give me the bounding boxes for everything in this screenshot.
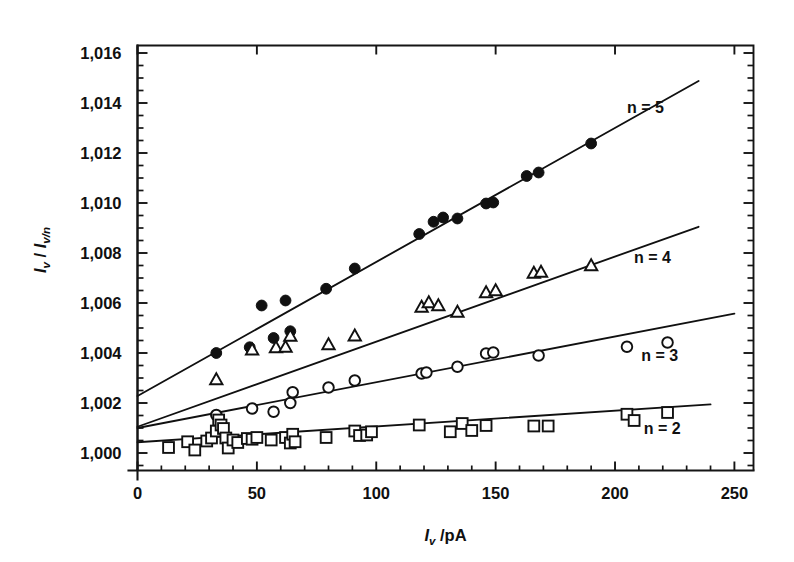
x-tick-label: 0 — [133, 484, 142, 502]
marker-open-square — [528, 421, 539, 432]
y-tick-label: 1,000 — [80, 444, 121, 462]
y-axis-title: Iv / Iv/n — [31, 227, 52, 273]
marker-open-square — [366, 426, 377, 437]
marker-open-square — [414, 420, 425, 431]
marker-filled-circle — [488, 197, 499, 208]
marker-filled-circle — [256, 300, 267, 311]
marker-open-triangle — [423, 296, 435, 307]
marker-filled-circle — [321, 283, 332, 294]
marker-filled-circle — [211, 348, 222, 359]
series-labels: n = 5n = 4n = 3n = 2 — [627, 99, 681, 437]
marker-open-square — [290, 436, 301, 447]
series-label-0: n = 5 — [627, 99, 664, 116]
marker-filled-circle — [349, 263, 360, 274]
marker-filled-circle — [452, 213, 463, 224]
x-tick-label: 200 — [601, 484, 629, 502]
marker-open-square — [543, 421, 554, 432]
marker-open-triangle — [210, 373, 222, 384]
marker-open-square — [629, 415, 640, 426]
marker-open-square — [662, 407, 673, 418]
y-tick-label: 1,008 — [80, 244, 121, 262]
marker-open-triangle — [349, 329, 361, 340]
marker-open-triangle — [279, 341, 291, 352]
marker-filled-circle — [438, 212, 449, 223]
y-tick-label: 1,012 — [80, 144, 121, 162]
x-tick-label: 50 — [248, 484, 266, 502]
marker-filled-circle — [533, 167, 544, 178]
y-tick-label: 1,006 — [80, 294, 121, 312]
marker-open-square — [481, 420, 492, 431]
marker-open-circle — [622, 341, 633, 352]
series-label-3: n = 2 — [644, 420, 681, 437]
x-tick-label: 100 — [362, 484, 390, 502]
series-label-1: n = 4 — [634, 249, 671, 266]
marker-open-square — [466, 425, 477, 436]
marker-open-triangle — [489, 284, 501, 295]
scatter-plot-svg: 0501001502002501,0001,0021,0041,0061,008… — [0, 0, 794, 562]
marker-open-circle — [421, 367, 432, 378]
marker-filled-circle — [280, 295, 291, 306]
fit-line-n4 — [138, 227, 699, 427]
y-tick-label: 1,004 — [80, 344, 122, 362]
y-tick-label: 1,016 — [80, 44, 121, 62]
marker-open-square — [163, 442, 174, 453]
series-n2 — [163, 407, 673, 455]
marker-open-square — [266, 435, 277, 446]
marker-filled-circle — [521, 171, 532, 182]
x-tick-label: 250 — [721, 484, 749, 502]
marker-filled-circle — [414, 229, 425, 240]
marker-open-circle — [268, 406, 279, 417]
series-n5 — [211, 138, 597, 358]
y-tick-label: 1,010 — [80, 194, 121, 212]
figure-container: 0501001502002501,0001,0021,0041,0061,008… — [0, 0, 794, 562]
series-label-2: n = 3 — [641, 347, 678, 364]
marker-open-square — [445, 426, 456, 437]
marker-filled-circle — [586, 138, 597, 149]
x-tick-label: 150 — [482, 484, 510, 502]
marker-open-square — [251, 432, 262, 443]
marker-open-triangle — [585, 259, 597, 270]
fit-line-n3 — [138, 314, 735, 428]
y-tick-label: 1,002 — [80, 394, 121, 412]
marker-open-square — [189, 445, 200, 456]
x-axis-title: Iv /pA — [424, 526, 466, 547]
marker-open-circle — [349, 375, 360, 386]
y-tick-label: 1,014 — [80, 94, 122, 112]
marker-open-circle — [533, 350, 544, 361]
marker-open-circle — [488, 347, 499, 358]
marker-open-triangle — [322, 338, 334, 349]
marker-open-circle — [287, 387, 298, 398]
marker-open-square — [321, 432, 332, 443]
marker-open-circle — [247, 403, 258, 414]
marker-open-circle — [285, 398, 296, 409]
marker-open-circle — [452, 361, 463, 372]
marker-open-circle — [323, 382, 334, 393]
